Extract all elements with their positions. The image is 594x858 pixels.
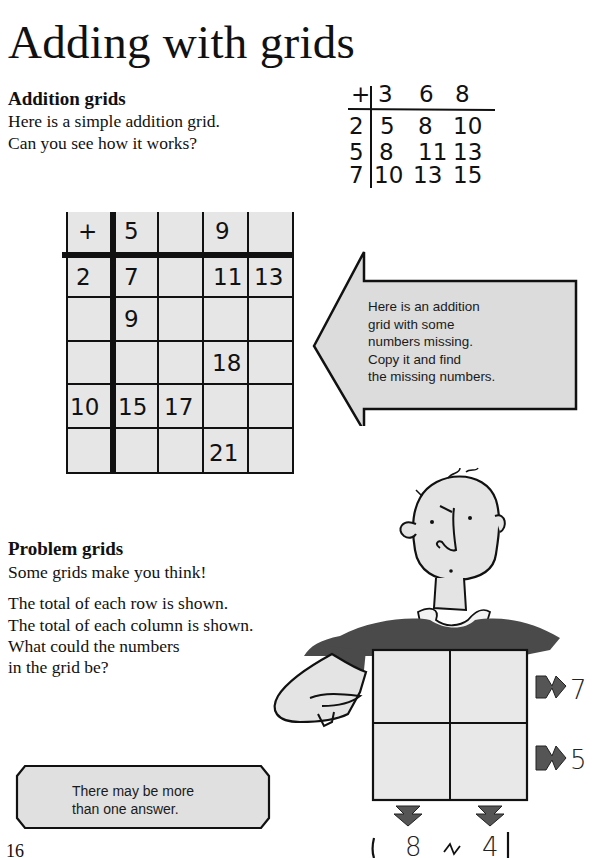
simple-grid-cell: 11: [418, 140, 447, 164]
simple-addition-grid: + 3 6 8 2 5 8 10 5 8 11 13 7 10 13 15: [343, 84, 498, 192]
arrow-callout-line: the missing numbers.: [368, 368, 495, 386]
problem-grids-line-1: The total of each row is shown.: [8, 592, 228, 614]
grid-col-header: 5: [124, 218, 139, 244]
grid-line: [66, 427, 294, 429]
right-arrow-icon: [536, 676, 566, 698]
simple-grid-cell: 5: [380, 114, 395, 138]
simple-grid-row-header: 7: [349, 163, 364, 187]
grid-row-header: 2: [76, 264, 91, 290]
hint-line: There may be more: [72, 782, 194, 800]
arrow-callout-line: Copy it and find: [368, 351, 495, 369]
missing-numbers-grid: + 5 9 2 7 11 13 9 18 10 15 17 21: [66, 212, 294, 474]
problem-grids-intro: Some grids make you think!: [8, 561, 206, 583]
grid-line: [66, 296, 294, 298]
simple-grid-col-header: 3: [378, 82, 393, 106]
arrow-callout-text: Here is an addition grid with some numbe…: [368, 298, 495, 386]
simple-grid-cell: 15: [453, 163, 482, 187]
grid-col-header: 9: [215, 218, 230, 244]
grid-cell: 9: [124, 306, 139, 332]
head: [413, 477, 499, 581]
simple-grid-cell: 10: [453, 114, 482, 138]
simple-grid-row-header: 2: [349, 114, 364, 138]
grid-cell: 21: [209, 440, 238, 466]
page-title: Adding with grids: [8, 14, 355, 70]
arrow-callout: Here is an addition grid with some numbe…: [312, 246, 578, 434]
grid-row-header: 10: [70, 394, 99, 420]
row-total: 7: [570, 675, 587, 705]
grid-cell: 13: [254, 264, 283, 290]
down-arrow-icon: [394, 806, 422, 826]
simple-grid-row-header: 5: [349, 140, 364, 164]
arrow-callout-line: grid with some: [368, 316, 495, 334]
grid-cell: 18: [212, 350, 241, 376]
grid-line: [66, 383, 294, 385]
addition-grids-heading: Addition grids: [8, 88, 126, 110]
simple-grid-cell: 13: [413, 163, 442, 187]
column-total: 8: [405, 832, 422, 858]
column-total: 4: [482, 832, 499, 858]
grid-cell: 17: [164, 394, 193, 420]
simple-grid-cell: 8: [379, 140, 394, 164]
problem-grids-line-2: The total of each column is shown.: [8, 614, 253, 636]
simple-grid-cell: 10: [374, 163, 403, 187]
hint-line: than one answer.: [72, 800, 194, 818]
right-arrow-icon: [536, 746, 566, 770]
hint-text: There may be more than one answer.: [72, 782, 194, 818]
simple-grid-operator: +: [351, 82, 370, 106]
down-arrow-icon: [476, 806, 504, 826]
grid-operator: +: [78, 218, 97, 244]
addition-grids-line-1: Here is a simple addition grid.: [8, 110, 220, 132]
simple-grid-cell: 13: [453, 140, 482, 164]
grid-cell: 15: [118, 394, 147, 420]
page-number: 16: [6, 841, 24, 858]
problem-grids-line-3: What could the numbers: [8, 635, 180, 657]
grid-line: [66, 472, 294, 474]
grid-header-divider: [62, 252, 294, 258]
grid-cell: 7: [124, 264, 139, 290]
simple-grid-col-header: 8: [455, 82, 470, 106]
row-total: 5: [570, 745, 587, 775]
arrow-callout-line: Here is an addition: [368, 298, 495, 316]
grid-cell: 11: [213, 264, 242, 290]
addition-grids-line-2: Can you see how it works?: [8, 132, 197, 154]
simple-grid-col-header: 6: [419, 82, 434, 106]
cartoon-boy-illustration: [270, 460, 594, 858]
simple-grid-cell: 8: [418, 114, 433, 138]
problem-grids-heading: Problem grids: [8, 538, 123, 560]
grid-line: [66, 340, 294, 342]
arrow-callout-line: numbers missing.: [368, 333, 495, 351]
problem-grids-line-4: in the grid be?: [8, 656, 109, 678]
